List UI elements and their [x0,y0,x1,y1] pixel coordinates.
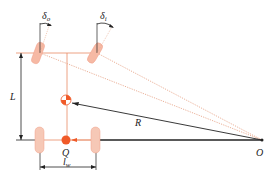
point-o-label: O [256,147,263,158]
radius-label: R [134,117,141,128]
rear-left-wheel [35,127,44,153]
steering-geometry-diagram: δo δi L R Q O lw [0,0,267,172]
wheelbase-arrow-top [19,53,23,58]
wheelbase-arrow-bottom [19,135,23,140]
inner-wheel-dir-line [97,25,113,53]
q-arrowhead [71,138,77,142]
outer-wheel-dotted-ray [40,53,262,140]
radius-line [72,103,262,140]
inner-wheel-dotted-ray [97,53,262,140]
delta-i-label: δi [100,10,107,23]
radius-arrowhead [72,102,79,106]
wheelbase-label: L [9,91,16,102]
point-q-marker [62,136,71,145]
outer-wheel-dir-line [40,23,50,53]
track-arrow-left [40,165,45,169]
track-arrow-right [91,165,96,169]
center-of-gravity-marker [61,95,71,105]
delta-o-label: δo [42,10,51,23]
rear-right-wheel [91,127,100,153]
point-o-marker [261,139,264,142]
